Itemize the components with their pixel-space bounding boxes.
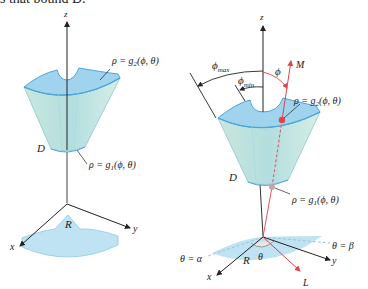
- right-R-label: R: [242, 254, 250, 266]
- phi-min-label: ϕmin: [238, 74, 255, 89]
- left-D-label: D: [36, 142, 45, 154]
- left-R-label: R: [64, 218, 72, 230]
- right-inner-surface-label: ρ = g1(ϕ, θ): [291, 194, 339, 207]
- inner-point: [269, 184, 275, 190]
- L-label: L: [302, 277, 309, 288]
- right-z-label: z: [259, 12, 264, 22]
- theta-alpha-label: θ = α: [180, 253, 203, 264]
- right-D-label: D: [228, 171, 237, 183]
- left-outer-surface-label: ρ = g2(ϕ, θ): [111, 55, 159, 68]
- theta-label: θ: [258, 251, 263, 262]
- left-y-label: y: [132, 223, 138, 234]
- M-label: M: [295, 59, 305, 70]
- right-base-region: [212, 236, 322, 260]
- right-figure: z x y D R θ ϕ M L ϕmax ϕmin ρ = g2(ϕ, θ)…: [180, 12, 354, 288]
- spherical-region-diagram: z x y D R ρ = g2(ϕ, θ) ρ = g1(ϕ, θ): [0, 0, 368, 289]
- theta-beta-label: θ = β: [332, 240, 354, 251]
- phi-max-label: ϕmax: [212, 59, 230, 74]
- right-y-label: y: [331, 255, 337, 266]
- phi-label: ϕ: [275, 65, 281, 77]
- right-x-label: x: [206, 271, 212, 282]
- left-figure: z x y D R ρ = g2(ϕ, θ) ρ = g1(ϕ, θ): [9, 9, 159, 257]
- left-inner-surface-label: ρ = g1(ϕ, θ): [88, 159, 136, 172]
- left-x-label: x: [9, 241, 15, 252]
- left-z-label: z: [63, 9, 68, 19]
